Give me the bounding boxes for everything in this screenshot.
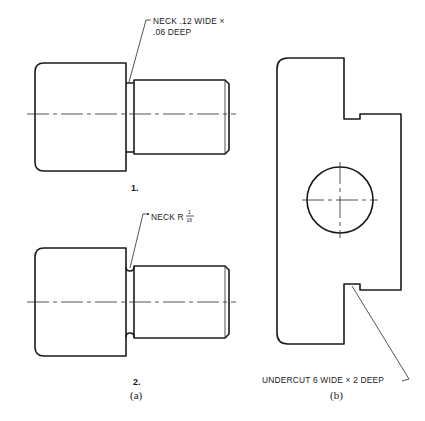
- part-b-caption: (b): [330, 389, 343, 402]
- fraction-numerator: 1: [188, 209, 191, 215]
- neck-1-leader: [129, 20, 151, 82]
- neck-2-note: NECK R: [151, 212, 184, 222]
- technical-drawing: NECK .12 WIDE × .06 DEEP 1. NECK R 1 16 …: [0, 0, 425, 421]
- neck-2-leader: [130, 214, 148, 268]
- fraction-denominator: 16: [187, 217, 193, 223]
- shaft-1-head: [35, 63, 126, 171]
- neck-1-note-line2: .06 DEEP: [153, 27, 192, 37]
- undercut-leader: [352, 286, 409, 381]
- shaft-1-body: [134, 80, 229, 154]
- example-2-label: 2.: [133, 377, 141, 387]
- part-a-caption: (a): [130, 389, 143, 402]
- shaft-example-2: NECK R 1 16 2. (a): [27, 209, 236, 402]
- plate-part-b: UNDERCUT 6 WIDE × 2 DEEP (b): [262, 58, 409, 402]
- example-1-label: 1.: [131, 183, 139, 193]
- shaft-example-1: NECK .12 WIDE × .06 DEEP 1.: [27, 16, 236, 193]
- neck-1-note-line1: NECK .12 WIDE ×: [153, 16, 225, 26]
- undercut-note: UNDERCUT 6 WIDE × 2 DEEP: [262, 375, 384, 385]
- shaft-1-neck: [126, 83, 134, 152]
- plate-outline: [277, 58, 401, 344]
- leader-dot: [147, 213, 149, 215]
